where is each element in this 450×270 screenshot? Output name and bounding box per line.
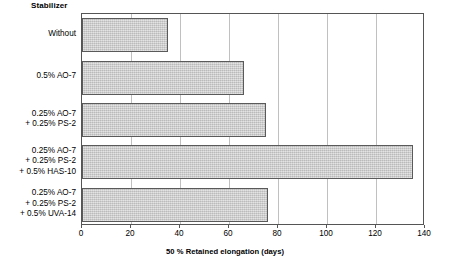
x-tick-mark	[326, 225, 327, 228]
x-axis-title: 50 % Retained elongation (days)	[0, 247, 450, 256]
category-axis-header: Stabilizer	[31, 1, 68, 10]
x-tick-mark	[277, 225, 278, 228]
bar-row	[82, 188, 425, 222]
x-tick-mark	[424, 225, 425, 228]
x-tick-mark	[375, 225, 376, 228]
bar-row	[82, 103, 425, 137]
x-tick-label: 60	[213, 229, 243, 238]
category-label: 0.5% AO-7	[0, 71, 76, 82]
plot-area	[81, 13, 424, 225]
bar-row	[82, 145, 425, 179]
bar-chart: Stabilizer Without0.5% AO-70.25% AO-7+ 0…	[0, 0, 450, 270]
x-tick-label: 40	[164, 229, 194, 238]
x-tick-label: 20	[115, 229, 145, 238]
x-tick-mark	[179, 225, 180, 228]
category-label: 0.25% AO-7+ 0.25% PS-2+ 0.5% UVA-14	[0, 188, 76, 220]
x-tick-label: 120	[360, 229, 390, 238]
category-label: 0.25% AO-7+ 0.25% PS-2	[0, 109, 76, 130]
bar[interactable]	[82, 188, 268, 222]
bar-row	[82, 61, 425, 95]
category-label-column: Without0.5% AO-70.25% AO-7+ 0.25% PS-20.…	[0, 13, 76, 225]
x-tick-label: 140	[409, 229, 439, 238]
bar[interactable]	[82, 145, 413, 179]
x-tick-label: 0	[66, 229, 96, 238]
x-tick-mark	[130, 225, 131, 228]
x-tick-mark	[228, 225, 229, 228]
x-tick-mark	[81, 225, 82, 228]
bar-row	[82, 18, 425, 52]
category-label: Without	[0, 29, 76, 40]
x-tick-label: 80	[262, 229, 292, 238]
bar[interactable]	[82, 103, 266, 137]
x-tick-label: 100	[311, 229, 341, 238]
bar[interactable]	[82, 61, 244, 95]
bar[interactable]	[82, 18, 168, 52]
category-label: 0.25% AO-7+ 0.25% PS-2+ 0.5% HAS-10	[0, 146, 76, 178]
